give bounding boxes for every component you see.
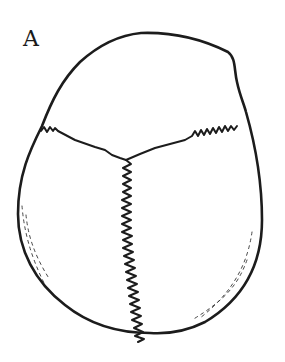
shading-left [22, 206, 45, 285]
sagittal-suture [122, 160, 144, 342]
skull-illustration [0, 0, 285, 362]
coronal-suture-left [41, 127, 126, 160]
skull-outline [18, 33, 262, 333]
coronal-suture-right [126, 126, 237, 160]
